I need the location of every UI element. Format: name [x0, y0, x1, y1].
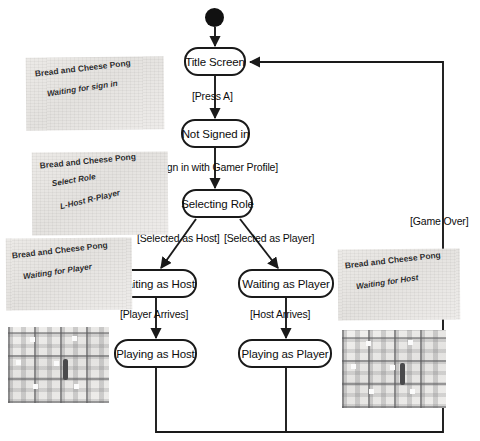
edge-label-sign-in-with-gamer-profile: [Sign in with Gamer Profile] [155, 161, 278, 173]
state-selecting-role[interactable]: Selecting Role [182, 189, 253, 218]
initial-state-dot [205, 8, 224, 27]
screenshot-line-3-1: Waiting for Player [22, 262, 92, 281]
pong-ball-icon [351, 364, 356, 369]
screenshot-waiting-for-host: Bread and Cheese Pong Waiting for Host [338, 248, 461, 320]
edge-label-game-over: [Game Over] [410, 215, 468, 227]
pong-ball-icon [54, 361, 59, 366]
screenshot-waiting-for-player: Bread and Cheese Pong Waiting for Player [6, 237, 133, 310]
edge-label-press-a: [Press A] [192, 90, 233, 102]
screenshot-select-role: Bread and Cheese Pong Select Role L-Host… [32, 152, 169, 236]
screenshot-gameplay-host [8, 327, 109, 403]
state-diagram-figure: Title Screen Not Signed in Selecting Rol… [0, 0, 480, 441]
screenshot-line-2-2: L-Host R-Player [59, 188, 121, 211]
pong-paddle-icon [400, 363, 405, 385]
pong-ball-icon [30, 337, 35, 342]
pong-ball-icon [366, 341, 371, 346]
pong-ball-icon [74, 384, 79, 389]
edge-label-player-arrives: [Player Arrives] [120, 308, 188, 320]
pong-paddle-icon [63, 359, 68, 380]
state-title-screen[interactable]: Title Screen [184, 47, 246, 76]
state-playing-as-host[interactable]: Playing as Host [114, 339, 197, 368]
screenshot-title-3: Bread and Cheese Pong [11, 240, 108, 261]
state-waiting-as-player-label: Waiting as Player [242, 278, 329, 290]
screenshot-waiting-for-sign-in: Bread and Cheese Pong Waiting for sign i… [26, 56, 165, 130]
state-playing-as-host-label: Playing as Host [116, 348, 194, 360]
screenshot-title-1: Bread and Cheese Pong [34, 58, 131, 79]
state-playing-as-player-label: Playing as Player [241, 348, 328, 360]
state-selecting-role-label: Selecting Role [181, 198, 254, 210]
pong-ball-icon [16, 360, 21, 365]
state-title-screen-label: Title Screen [185, 56, 245, 68]
screenshot-line-1-1: Waiting for sign in [46, 79, 118, 99]
state-not-signed-in-label: Not Signed in [182, 128, 250, 140]
screenshot-title-2: Bread and Cheese Pong [39, 152, 136, 171]
edge-label-selected-as-player: [Selected as Player] [224, 232, 314, 244]
state-playing-as-player[interactable]: Playing as Player [238, 339, 332, 368]
pong-ball-icon [72, 336, 77, 341]
state-not-signed-in[interactable]: Not Signed in [181, 119, 250, 148]
pong-ball-icon [369, 389, 374, 394]
state-waiting-as-player[interactable]: Waiting as Player [238, 269, 334, 298]
screenshot-title-4: Bread and Cheese Pong [344, 250, 441, 271]
pong-ball-icon [33, 384, 38, 389]
screenshot-line-4-1: Waiting for Host [355, 273, 419, 291]
pong-ball-icon [390, 365, 395, 370]
screenshot-line-2-1: Select Role [51, 172, 96, 188]
edge-label-host-arrives: [Host Arrives] [250, 308, 310, 320]
screenshot-gameplay-player [342, 330, 446, 408]
pong-ball-icon [410, 389, 415, 394]
pong-ball-icon [408, 340, 413, 345]
